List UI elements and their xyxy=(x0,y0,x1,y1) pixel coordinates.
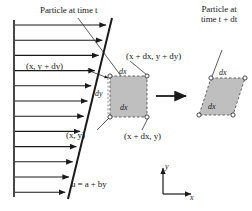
fluid-element-after xyxy=(197,76,247,117)
label-velocity-equation: u = a + by xyxy=(71,179,107,189)
label-dy-square: dy xyxy=(95,89,102,98)
label-dx-top-square: dx xyxy=(119,67,126,76)
velocity-profile-line xyxy=(68,18,112,199)
label-axis-y: y xyxy=(165,162,168,171)
shear-deformation-figure: Particle at time t Particle at time t + … xyxy=(0,0,252,211)
leader-top-right-corner xyxy=(130,61,147,75)
label-particle-time-t: Particle at time t xyxy=(40,5,97,15)
label-corner-bottom-left: (x, y) xyxy=(66,130,85,140)
coordinate-axes xyxy=(163,168,191,194)
velocity-arrows xyxy=(15,25,106,192)
leader-bottom-left-corner xyxy=(97,118,109,130)
leader-bottom-right-corner xyxy=(142,118,148,130)
label-dx-bottom-parallelogram: dx xyxy=(208,102,215,111)
label-corner-bottom-right: (x + dx, y) xyxy=(124,131,161,141)
label-dx-top-parallelogram: dx xyxy=(219,68,226,77)
label-dx-bottom-square: dx xyxy=(120,103,127,112)
label-corner-top-right: (x + dx, y + dy) xyxy=(126,51,181,61)
label-axis-x: x xyxy=(190,193,193,202)
label-corner-top-left: (x, y + dy) xyxy=(26,61,63,71)
label-particle-time-t-dt: Particle at time t + dt xyxy=(186,4,252,25)
fluid-element-before xyxy=(108,74,149,119)
